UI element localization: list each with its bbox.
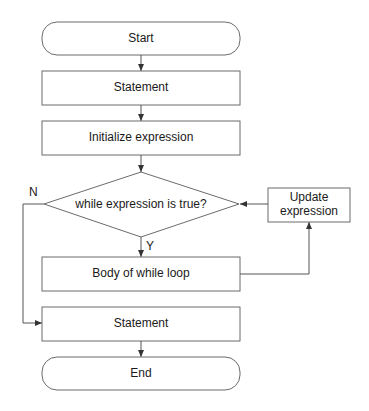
initialize-label: Initialize expression: [89, 130, 194, 144]
end-label: End: [130, 366, 151, 380]
statement-node-1: Statement: [42, 71, 240, 105]
flowchart-canvas: Start Statement Initialize expression wh…: [0, 0, 369, 411]
start-node: Start: [42, 22, 240, 55]
update-node: Update expression: [268, 188, 350, 222]
edge-body-update: [240, 222, 309, 274]
loop-body-label: Body of while loop: [92, 266, 190, 280]
statement-node-2: Statement: [42, 307, 240, 341]
update-label-line1: Update: [290, 190, 329, 204]
statement-1-label: Statement: [114, 80, 169, 94]
edge-condition-no: [23, 204, 44, 323]
no-branch-label: N: [29, 185, 38, 199]
condition-label: while expression is true?: [74, 197, 207, 211]
update-label-line2: expression: [280, 204, 338, 218]
yes-branch-label: Y: [146, 239, 154, 253]
start-label: Start: [128, 31, 154, 45]
initialize-node: Initialize expression: [42, 121, 240, 155]
condition-node: while expression is true?: [44, 172, 239, 237]
statement-2-label: Statement: [114, 316, 169, 330]
loop-body-node: Body of while loop: [42, 257, 240, 291]
end-node: End: [42, 357, 240, 390]
